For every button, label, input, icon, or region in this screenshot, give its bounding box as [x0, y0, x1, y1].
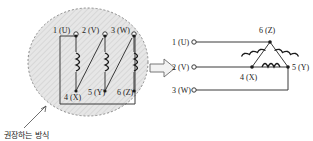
- terminal-r3-w[interactable]: [192, 88, 196, 92]
- terminal-r2-v[interactable]: [192, 65, 196, 69]
- label-r2-v: 2 (V): [172, 63, 189, 72]
- winding-diagram: 1 (U) 2 (V) 3 (W) 4 (X) 5 (Y) 6 (Z) 권장하는…: [0, 0, 313, 141]
- coil-bottom-leg: [262, 64, 280, 68]
- label-terminal-3-w: 3 (W): [111, 26, 130, 35]
- junction-1: [74, 34, 77, 37]
- vertex-6-z: [268, 40, 272, 44]
- label-r3-w: 3 (W): [172, 86, 191, 95]
- label-terminal-2-v: 2 (V): [82, 26, 99, 35]
- label-terminal-1-u: 1 (U): [53, 26, 70, 35]
- vertex-4-x: [250, 65, 254, 69]
- junction-2: [103, 34, 106, 37]
- label-r1-u: 1 (U): [172, 38, 189, 47]
- vertex-5-y: [286, 65, 290, 69]
- label-terminal-5-y: 5 (Y): [88, 88, 105, 97]
- label-terminal-4-x: 4 (X): [64, 93, 81, 102]
- right-panel-group: 1 (U) 2 (V) 3 (W) 6 (Z) 4 (X) 5 (Y): [172, 26, 309, 95]
- figure-root: 1 (U) 2 (V) 3 (W) 4 (X) 5 (Y) 6 (Z) 권장하는…: [0, 0, 313, 141]
- label-v5-y: 5 (Y): [292, 63, 309, 72]
- label-v4-x: 4 (X): [240, 73, 257, 82]
- terminal-r1-u[interactable]: [192, 40, 196, 44]
- label-v6-z: 6 (Z): [259, 26, 276, 35]
- recommended-method-caption: 권장하는 방식: [4, 130, 49, 140]
- label-terminal-6-z: 6 (Z): [117, 88, 134, 97]
- recommended-region-circle: [28, 8, 148, 116]
- left-panel-group: 1 (U) 2 (V) 3 (W) 4 (X) 5 (Y) 6 (Z) 권장하는…: [4, 8, 148, 140]
- caption-leader-line: [24, 106, 46, 128]
- junction-3: [132, 34, 135, 37]
